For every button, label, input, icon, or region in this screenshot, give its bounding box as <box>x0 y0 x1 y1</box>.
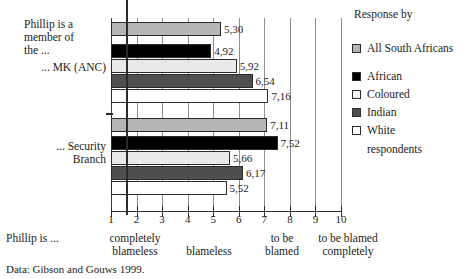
legend-item-label: Indian <box>367 106 396 119</box>
x-tick-label-7: 7 <box>253 214 275 225</box>
plot-area: 5,304,925,926,547,167,117,525,666,175,52 <box>111 18 341 211</box>
legend-swatch-icon <box>352 126 361 135</box>
x-tick-label-9: 9 <box>304 214 326 225</box>
axis-caption-to-be-blamed: to be blamed <box>300 232 396 245</box>
category-label-member-of: Phillip is a member of the ... <box>24 18 104 57</box>
axis-caption-completely: completely <box>96 232 174 245</box>
bar-row: 5,30 <box>111 22 341 36</box>
legend-item-label: African <box>367 70 402 83</box>
bar-row: 7,11 <box>111 118 341 132</box>
legend-item-label: Coloured <box>367 88 410 101</box>
axis-caption-completely-2: completely <box>300 245 396 258</box>
bar-value-label: 5,52 <box>227 183 249 194</box>
bar-row: 7,52 <box>111 136 341 150</box>
axis-caption-blameless: blameless <box>174 245 244 258</box>
x-tick-label-6: 6 <box>228 214 250 225</box>
bar-coloured-group-1 <box>111 151 230 165</box>
x-axis <box>111 211 341 212</box>
legend-item-label: White <box>367 124 395 137</box>
category-label-member-line3: the ... <box>24 44 104 57</box>
legend-swatch-icon <box>352 44 361 53</box>
bar-row: 5,92 <box>111 59 341 73</box>
bar-rows: 5,304,925,926,547,167,117,525,666,175,52 <box>111 18 341 211</box>
bar-row: 5,52 <box>111 181 341 195</box>
x-tick-label-8: 8 <box>279 214 301 225</box>
bar-value-label: 5,92 <box>237 61 259 72</box>
x-tick-label-2: 2 <box>126 214 148 225</box>
bar-african-group-1 <box>111 136 278 150</box>
gridline-10 <box>341 18 342 211</box>
axis-caption-completely-blameless: completely blameless <box>96 232 174 258</box>
legend-item-coloured[interactable]: Coloured <box>352 87 468 101</box>
legend-item-indian[interactable]: Indian <box>352 105 468 119</box>
legend-swatch-icon <box>352 108 361 117</box>
x-tick-label-3: 3 <box>151 214 173 225</box>
source-note: Data: Gibson and Gouws 1999. <box>6 263 144 276</box>
legend-item-white[interactable]: White <box>352 123 468 137</box>
x-tick-label-10: 10 <box>330 214 352 225</box>
bar-row: 6,17 <box>111 166 341 180</box>
bar-value-label: 4,92 <box>211 46 233 57</box>
axis-caption-blameless-1: blameless <box>96 245 174 258</box>
bar-value-label: 7,52 <box>278 138 300 149</box>
category-label-member-line1: Phillip is a <box>24 18 104 31</box>
bar-value-label: 7,16 <box>268 91 290 102</box>
legend-title: Response by <box>352 8 468 21</box>
legend-item-african[interactable]: African <box>352 69 468 83</box>
group-separator-tick <box>106 113 113 115</box>
bar-white-group-1 <box>111 181 227 195</box>
x-tick-label-5: 5 <box>202 214 224 225</box>
bar-white-group-0 <box>111 89 268 103</box>
bar-indian-group-1 <box>111 166 243 180</box>
legend: Response by All South AfricansAfricanCol… <box>352 8 468 156</box>
category-label-mk-anc: ... MK (ANC) <box>14 61 106 74</box>
legend-swatch-icon <box>352 72 361 81</box>
x-tick-label-1: 1 <box>100 214 122 225</box>
category-label-security-branch: ... Security Branch <box>14 140 106 166</box>
category-label-member-line2: member of <box>24 31 104 44</box>
legend-swatch-icon <box>352 90 361 99</box>
x-tick-label-4: 4 <box>177 214 199 225</box>
bar-value-label: 7,11 <box>267 120 289 131</box>
bar-value-label: 6,54 <box>253 76 275 87</box>
bar-row: 4,92 <box>111 44 341 58</box>
bar-indian-group-0 <box>111 74 253 88</box>
legend-items: All South AfricansAfricanColouredIndianW… <box>352 41 468 137</box>
reference-line-5-5 <box>126 0 128 215</box>
bar-row: 5,66 <box>111 151 341 165</box>
bar-coloured-group-0 <box>111 59 237 73</box>
bar-value-label: 5,66 <box>230 153 252 164</box>
axis-caption-to-be-blamed-completely: to be blamed completely <box>300 232 396 258</box>
bar-all-south-africans-group-1 <box>111 118 267 132</box>
bar-value-label: 6,17 <box>243 168 265 179</box>
bar-row: 6,54 <box>111 74 341 88</box>
category-label-security-line2: Branch <box>14 153 106 166</box>
legend-item-all-south-africans[interactable]: All South Africans <box>352 41 468 55</box>
bar-chart-figure: Phillip is a member of the ... ... MK (A… <box>0 0 469 279</box>
legend-footer: respondents <box>352 143 468 156</box>
bar-row: 7,16 <box>111 89 341 103</box>
axis-caption-prefix: Phillip is ... <box>6 232 59 245</box>
category-label-security-line1: ... Security <box>14 140 106 153</box>
legend-item-label: All South Africans <box>367 42 453 55</box>
bar-value-label: 5,30 <box>221 24 243 35</box>
